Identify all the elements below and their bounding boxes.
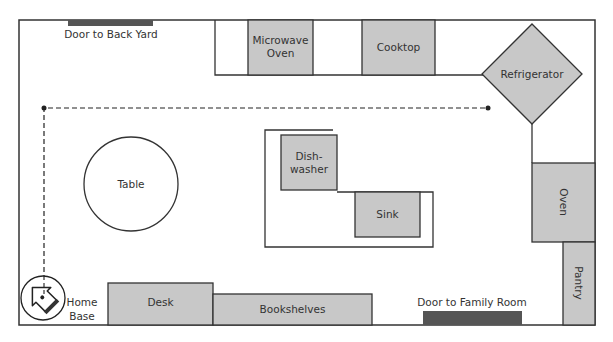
path-end-dot (486, 106, 491, 111)
microwave-label-1: Microwave (253, 34, 309, 46)
home-base-label-1: Home (66, 296, 97, 308)
door-family-room (423, 311, 522, 325)
door-back-yard (68, 20, 153, 26)
dishwasher-label-2: washer (290, 163, 329, 175)
table-label: Table (116, 178, 144, 190)
refrigerator-label: Refrigerator (501, 68, 565, 80)
sink-label: Sink (376, 208, 399, 220)
door-back-yard-label: Door to Back Yard (64, 28, 158, 40)
desk-label: Desk (147, 296, 174, 308)
dishwasher-label-1: Dish- (296, 150, 323, 162)
home-base-label-2: Base (69, 310, 95, 322)
path-start-dot (42, 106, 47, 111)
microwave-label-2: Oven (267, 47, 295, 59)
bookshelves-label: Bookshelves (260, 303, 326, 315)
robot-vacuum-icon (21, 276, 65, 320)
kitchen-floor-plan: Door to Back Yard Microwave Oven Cooktop… (0, 0, 613, 342)
pantry-label: Pantry (573, 266, 585, 300)
cooktop-label: Cooktop (377, 41, 421, 53)
door-family-room-label: Door to Family Room (417, 296, 527, 308)
oven-label: Oven (558, 188, 570, 216)
